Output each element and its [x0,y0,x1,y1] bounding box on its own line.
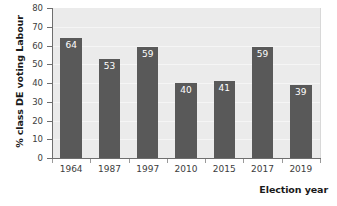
bar-value-label: 41 [214,84,235,94]
gridline [52,27,320,28]
x-tick-label: 1964 [52,165,90,174]
bar: 59 [252,47,273,158]
x-tick-label: 1987 [90,165,128,174]
x-tick-label: 1997 [129,165,167,174]
y-tick-label: 40 [3,79,43,88]
y-tick-label: 30 [3,98,43,107]
bar: 41 [214,81,235,158]
y-tick-mark [47,8,52,9]
gridline [52,46,320,47]
y-tick-mark [47,83,52,84]
y-axis-line [52,8,53,159]
bar: 64 [60,38,81,158]
x-tick-label: 2015 [205,165,243,174]
y-tick-mark [47,139,52,140]
x-tick-mark [243,159,244,163]
bar: 53 [99,59,120,158]
x-tick-mark [52,159,53,163]
y-tick-label: 70 [3,23,43,32]
y-tick-mark [47,46,52,47]
y-tick-mark [47,102,52,103]
x-tick-mark [320,159,321,163]
x-axis-line [52,158,321,159]
y-tick-label: 60 [3,42,43,51]
y-tick-label: 0 [3,154,43,163]
bar-chart-figure: % class DE voting Labour 64535940415939 … [0,0,337,206]
bar-value-label: 40 [175,86,196,96]
y-tick-label: 50 [3,60,43,69]
bar: 39 [290,85,311,158]
x-tick-label: 2017 [243,165,281,174]
y-tick-mark [47,64,52,65]
bar: 40 [175,83,196,158]
x-tick-label: 2010 [167,165,205,174]
bar-value-label: 59 [252,50,273,60]
x-tick-mark [167,159,168,163]
x-tick-label: 2019 [282,165,320,174]
x-tick-mark [205,159,206,163]
y-tick-label: 80 [3,4,43,13]
bar-value-label: 53 [99,62,120,72]
x-tick-mark [129,159,130,163]
x-tick-mark [282,159,283,163]
x-tick-mark [90,159,91,163]
y-tick-mark [47,121,52,122]
bar-value-label: 39 [290,88,311,98]
bar: 59 [137,47,158,158]
gridline [52,64,320,65]
y-tick-label: 10 [3,135,43,144]
plot-area: 64535940415939 [52,8,321,158]
bar-value-label: 64 [60,41,81,51]
bar-value-label: 59 [137,50,158,60]
y-tick-mark [47,27,52,28]
y-tick-label: 20 [3,117,43,126]
x-axis-title: Election year [259,184,328,195]
